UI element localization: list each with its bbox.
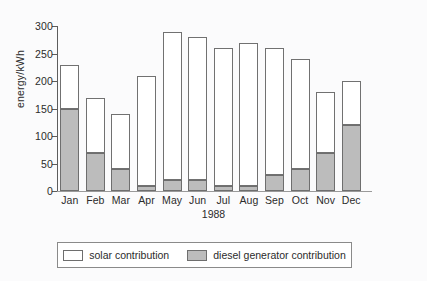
y-axis-tick-label: 250: [35, 48, 53, 60]
legend-label-solar: solar contribution: [89, 249, 169, 261]
plot-area: 050100150200250300: [57, 26, 364, 191]
legend-item-solar: solar contribution: [63, 249, 169, 261]
bar-group[interactable]: [214, 26, 233, 191]
bar-segment-solar[interactable]: [163, 32, 182, 181]
y-axis-tick-label: 150: [35, 103, 53, 115]
bar-segment-diesel[interactable]: [265, 175, 284, 192]
bar-group[interactable]: [239, 26, 258, 191]
bar-group[interactable]: [188, 26, 207, 191]
bar-group[interactable]: [60, 26, 79, 191]
bar-segment-solar[interactable]: [316, 92, 335, 153]
bar-segment-diesel[interactable]: [342, 125, 361, 191]
bar-segment-diesel[interactable]: [60, 109, 79, 192]
y-axis-tick-label: 50: [41, 158, 53, 170]
bar-group[interactable]: [163, 26, 182, 191]
legend-item-diesel: diesel generator contribution: [187, 249, 346, 261]
bar-segment-solar[interactable]: [86, 98, 105, 153]
chart-figure: energy/kWh 050100150200250300 JanFebMarA…: [0, 0, 427, 281]
bar-segment-solar[interactable]: [111, 114, 130, 169]
bar-segment-diesel[interactable]: [214, 186, 233, 192]
y-axis-tick-label: 300: [35, 20, 53, 32]
y-axis-tick-label: 0: [47, 185, 53, 197]
bar-group[interactable]: [316, 26, 335, 191]
white-square-icon: [63, 250, 83, 261]
x-axis-line: [52, 191, 372, 192]
x-axis-title: 1988: [0, 208, 427, 220]
bar-group[interactable]: [137, 26, 156, 191]
bar-segment-solar[interactable]: [265, 48, 284, 175]
x-axis-tick-label: Oct: [287, 194, 313, 206]
bar-group[interactable]: [86, 26, 105, 191]
bar-segment-diesel[interactable]: [137, 186, 156, 192]
x-axis-tick-label: Jul: [211, 194, 237, 206]
bar-segment-solar[interactable]: [60, 65, 79, 109]
bar-segment-solar[interactable]: [291, 59, 310, 169]
x-axis-tick-label: Dec: [338, 194, 364, 206]
bar-segment-diesel[interactable]: [291, 169, 310, 191]
x-axis-tick-label: May: [159, 194, 185, 206]
x-axis-tick-label: Apr: [134, 194, 160, 206]
x-axis-tick-label: Aug: [236, 194, 262, 206]
x-axis-tick-label: Jun: [185, 194, 211, 206]
bar-segment-solar[interactable]: [342, 81, 361, 125]
bar-group[interactable]: [265, 26, 284, 191]
x-axis-tick-label: Jan: [57, 194, 83, 206]
bar-segment-solar[interactable]: [214, 48, 233, 186]
x-axis-tick-label: Feb: [83, 194, 109, 206]
bar-segment-solar[interactable]: [188, 37, 207, 180]
x-axis-tick-label: Nov: [313, 194, 339, 206]
bar-segment-solar[interactable]: [137, 76, 156, 186]
x-axis-tick-label: Sep: [262, 194, 288, 206]
bar-group[interactable]: [291, 26, 310, 191]
bar-group[interactable]: [111, 26, 130, 191]
bar-segment-diesel[interactable]: [239, 186, 258, 192]
bar-group[interactable]: [342, 26, 361, 191]
y-axis-tick-label: 200: [35, 75, 53, 87]
bar-segment-diesel[interactable]: [316, 153, 335, 192]
y-axis-tick-label: 100: [35, 130, 53, 142]
bar-segment-diesel[interactable]: [163, 180, 182, 191]
bar-segment-diesel[interactable]: [86, 153, 105, 192]
y-axis-title: energy/kWh: [14, 50, 26, 108]
chart-legend: solar contribution diesel generator cont…: [57, 242, 352, 268]
x-axis-tick-label: Mar: [108, 194, 134, 206]
bar-segment-solar[interactable]: [239, 43, 258, 186]
bar-segment-diesel[interactable]: [111, 169, 130, 191]
bar-segment-diesel[interactable]: [188, 180, 207, 191]
grey-square-icon: [187, 250, 207, 261]
legend-label-diesel: diesel generator contribution: [213, 249, 346, 261]
